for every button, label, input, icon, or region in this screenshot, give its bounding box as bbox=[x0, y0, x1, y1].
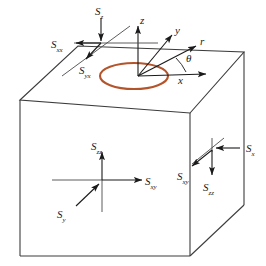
block-front-face bbox=[20, 100, 190, 256]
x-axis-label: x bbox=[177, 74, 183, 86]
theta-angle-label: θ bbox=[186, 52, 192, 64]
y-axis-label: y bbox=[174, 24, 180, 36]
wellbore-stress-figure: z y r x θ Sz Sxx Syx bbox=[0, 0, 266, 266]
z-axis-label: z bbox=[139, 14, 145, 26]
stress-sxx-top-label: Sxx bbox=[51, 38, 64, 54]
figure-canvas: z y r x θ Sz Sxx Syx bbox=[0, 0, 266, 266]
stress-sx-right-label: Sx bbox=[246, 142, 256, 158]
r-axis-label: r bbox=[200, 35, 205, 47]
stress-sz-top-label: Sz bbox=[95, 5, 104, 21]
